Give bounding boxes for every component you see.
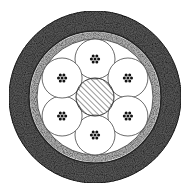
fiber-dot [90, 58, 93, 61]
fiber-dot [57, 77, 60, 80]
fiber-dot [130, 77, 133, 80]
fiber-dot [128, 73, 131, 76]
fiber-dot [92, 61, 95, 64]
fiber-dot [61, 77, 64, 80]
fiber-dot [64, 77, 67, 80]
fiber-dot [125, 73, 128, 76]
fiber-dot [61, 115, 64, 118]
fiber-dot [128, 111, 131, 114]
fiber-dot [95, 54, 98, 57]
fiber-dot [90, 134, 93, 137]
fiber-dot [97, 134, 100, 137]
fiber-dot [94, 134, 97, 137]
fiber-bundle [42, 58, 82, 98]
fiber-dot [92, 137, 95, 140]
fiber-dot [123, 115, 126, 118]
fiber-dot [92, 130, 95, 133]
fiber-dot [95, 61, 98, 64]
fiber-dot [94, 58, 97, 61]
fiber-dot [59, 118, 62, 121]
fiber-dot [62, 111, 65, 114]
fiber-dot [62, 118, 65, 121]
fiber-dot [62, 73, 65, 76]
fiber-dot [95, 130, 98, 133]
fiber-dot [95, 137, 98, 140]
fiber-dot [126, 115, 129, 118]
fiber-dot [57, 115, 60, 118]
fiber-dot [97, 58, 100, 61]
fiber-dot [128, 80, 131, 83]
fiber-dot [125, 80, 128, 83]
fiber-bundle [108, 58, 148, 98]
fiber-dot [59, 80, 62, 83]
fiber-dot [59, 111, 62, 114]
fiber-dot [92, 54, 95, 57]
cable-cross-section-diagram [0, 0, 187, 191]
fiber-dot [62, 80, 65, 83]
fiber-dot [128, 118, 131, 121]
fiber-dot [126, 77, 129, 80]
fiber-dot [125, 118, 128, 121]
fiber-bundle [42, 96, 82, 136]
fiber-dot [64, 115, 67, 118]
fiber-dot [125, 111, 128, 114]
fiber-dot [59, 73, 62, 76]
fiber-dot [130, 115, 133, 118]
fiber-dot [123, 77, 126, 80]
central-strength-member [76, 78, 114, 116]
